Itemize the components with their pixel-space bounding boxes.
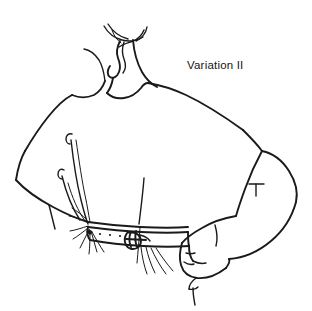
figure-line-drawing — [0, 0, 312, 311]
neck — [107, 40, 157, 93]
drape-folds — [58, 134, 90, 224]
arm — [182, 130, 297, 259]
illustration-canvas: Variation II — [0, 0, 312, 311]
belt-holes — [99, 233, 121, 237]
elbow-mark-icon — [249, 184, 264, 196]
hand — [180, 243, 229, 305]
variation-caption: Variation II — [187, 59, 244, 71]
belt-tail-folds — [141, 247, 173, 274]
